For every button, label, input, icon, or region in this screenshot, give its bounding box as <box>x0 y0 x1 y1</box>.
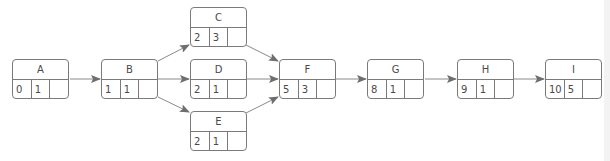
node-b-label: B <box>102 60 157 80</box>
node-a-value-2: 1 <box>32 80 51 99</box>
node-e-value-3 <box>228 132 246 151</box>
node-d-value-3 <box>228 80 246 99</box>
node-i-value-1: 10 <box>546 80 565 99</box>
edge-e-f <box>246 97 278 113</box>
node-b: B 1 1 <box>101 59 158 99</box>
node-f-value-1: 5 <box>280 80 299 99</box>
node-b-value-3 <box>139 80 157 99</box>
node-a-value-3 <box>50 80 68 99</box>
node-g-value-1: 8 <box>368 80 387 99</box>
edge-c-f <box>246 45 278 61</box>
node-b-value-1: 1 <box>102 80 121 99</box>
node-i-label: I <box>546 60 601 80</box>
node-a: A 0 1 <box>12 59 69 99</box>
node-c-value-2: 3 <box>210 28 229 47</box>
node-d-value-1: 2 <box>191 80 210 99</box>
node-f-label: F <box>280 60 335 80</box>
node-f-value-3 <box>317 80 335 99</box>
node-h: H 9 1 <box>457 59 514 99</box>
node-h-value-3 <box>495 80 513 99</box>
node-i: I 10 5 <box>545 59 602 99</box>
node-c-label: C <box>191 8 246 28</box>
node-c: C 2 3 <box>190 7 247 47</box>
node-i-value-2: 5 <box>565 80 584 99</box>
node-c-value-3 <box>228 28 246 47</box>
node-i-value-3 <box>583 80 601 99</box>
edge-b-c <box>158 45 189 61</box>
edge-b-e <box>158 97 189 112</box>
node-h-value-1: 9 <box>458 80 477 99</box>
node-g-value-2: 1 <box>387 80 406 99</box>
node-d-label: D <box>191 60 246 80</box>
node-g-value-3 <box>405 80 423 99</box>
node-e-label: E <box>191 112 246 132</box>
node-c-value-1: 2 <box>191 28 210 47</box>
node-a-value-1: 0 <box>13 80 32 99</box>
node-f-value-2: 3 <box>299 80 318 99</box>
node-e-value-1: 2 <box>191 132 210 151</box>
node-e: E 2 1 <box>190 111 247 151</box>
node-g: G 8 1 <box>367 59 424 99</box>
node-h-value-2: 1 <box>477 80 496 99</box>
node-h-label: H <box>458 60 513 80</box>
node-f: F 5 3 <box>279 59 336 99</box>
node-e-value-2: 1 <box>210 132 229 151</box>
node-g-label: G <box>368 60 423 80</box>
node-b-value-2: 1 <box>121 80 140 99</box>
node-d: D 2 1 <box>190 59 247 99</box>
node-d-value-2: 1 <box>210 80 229 99</box>
node-a-label: A <box>13 60 68 80</box>
